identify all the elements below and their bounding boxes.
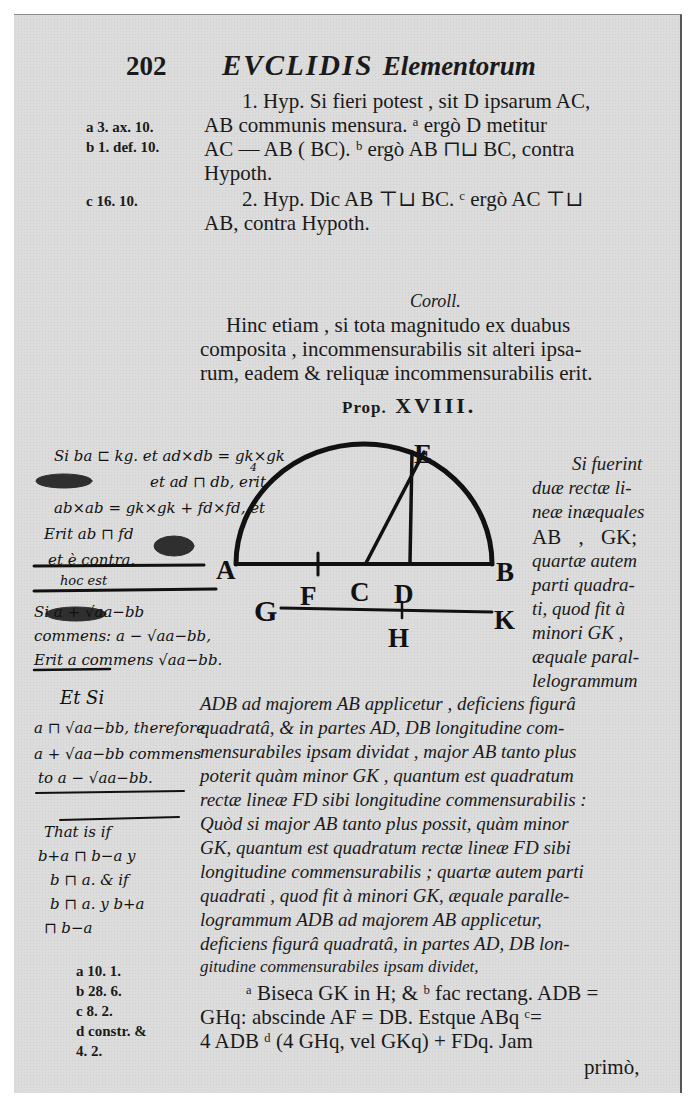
handwritten-line: b ⊓ a. & if [50, 871, 129, 889]
handwritten-line: commens: a − √aa−bb, [34, 627, 211, 645]
text-line: ti, quod fit à [532, 598, 625, 620]
handwritten-line: Erit ab ⊓ fd [44, 525, 134, 543]
handwritten-line: et ad ⊓ db, erit [150, 473, 266, 491]
book-page: 202 EVCLIDIS Elementorum 1. Hyp. Si fier… [14, 14, 682, 1093]
handwritten-line: a + √aa−bb commens [34, 745, 201, 763]
label-c: C [350, 577, 370, 607]
text-line: ADB ad majorem AB applicetur , deficiens… [200, 693, 576, 715]
handwritten-line: hoc est [60, 573, 107, 588]
text-line: æquale paral- [532, 646, 639, 668]
text-line: quartæ autem [532, 550, 637, 572]
text-line: gitudine commensurabiles ipsam dividet, [200, 957, 479, 977]
label-h: H [388, 623, 409, 653]
handwritten-line: b ⊓ a. y b+a [50, 895, 145, 913]
text-line: GHq: abscinde AF = DB. Estque ABq ᶜ= [200, 1005, 542, 1030]
line-de [410, 452, 412, 563]
text-line: rectæ lineæ FD sibi longitudine commensu… [200, 789, 587, 811]
text-line: minori GK , [532, 622, 623, 644]
text-line: AB , GK; [532, 525, 637, 550]
text-line: neæ inæquales [532, 501, 644, 523]
text-line: mensurabiles ipsam dividat , major AB ta… [200, 741, 576, 763]
handwritten-line: Et Si [60, 687, 104, 708]
catchword: primò, [584, 1055, 639, 1080]
margin-reference: a 10. 1. [76, 963, 121, 980]
handwritten-line: a ⊓ √aa−bb, therefore [34, 719, 205, 737]
handwritten-line: That is if [44, 823, 111, 841]
margin-reference: 4. 2. [76, 1043, 102, 1060]
handwritten-line: Si a + √aa−bb [34, 603, 144, 621]
text-line: GK, quantum est quadratum rectæ lineæ FD… [200, 837, 571, 859]
handwritten-line: b+a ⊓ b−a y [38, 847, 136, 865]
text-line: logrammum ADB ad majorem AB applicetur, [200, 909, 542, 931]
text-line: deficiens figurâ quadratâ, in partes AD,… [200, 933, 570, 955]
text-line: ᵃ Biseca GK in H; & ᵇ fac rectang. ADB = [246, 981, 598, 1006]
margin-reference: d constr. & [76, 1023, 147, 1040]
label-k: K [494, 605, 515, 635]
label-d: D [394, 579, 414, 609]
margin-reference: b 28. 6. [76, 983, 122, 1000]
text-line: longitudine commensurabilis ; quartæ aut… [200, 861, 584, 883]
text-line: lelogrammum [532, 670, 638, 692]
text-line: parti quadra- [532, 574, 635, 596]
label-a: A [216, 555, 236, 585]
text-line: quadrati , quod fit à minori GK, æquale … [200, 885, 569, 907]
text-line: Quòd si major AB tanto plus possit, quàm… [200, 813, 569, 835]
margin-reference: c 8. 2. [76, 1003, 113, 1020]
text-line: Si fuerint [572, 453, 642, 475]
label-f: F [300, 581, 317, 611]
label-e: E [414, 439, 432, 469]
label-b: B [496, 557, 514, 587]
handwritten-line: to a − √aa−bb. [38, 769, 153, 787]
text-line: quadratâ, & in partes AD, DB longitudine… [200, 717, 564, 739]
handwritten-line: ⊓ b−a [44, 919, 92, 937]
text-line: poterit quàm minor GK , quantum est quad… [200, 765, 574, 787]
text-line: 4 ADB ᵈ (4 GHq, vel GKq) + FDq. Jam [200, 1029, 533, 1054]
handwritten-line: et è contra. [48, 551, 135, 569]
label-g: G [254, 594, 277, 627]
text-line: duæ rectæ li- [532, 477, 632, 499]
handwritten-line: ab×ab = gk×gk + fd×fd, et [54, 499, 265, 517]
handwritten-line: Erit a commens √aa−bb. [34, 651, 222, 669]
